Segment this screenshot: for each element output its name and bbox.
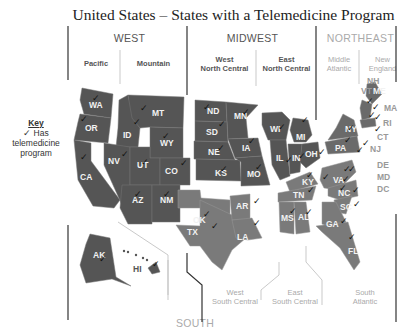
label-co: CO xyxy=(165,166,178,176)
check-icon: ✓ xyxy=(80,114,88,124)
label-sd: SD xyxy=(206,127,218,137)
check-icon: ✓ xyxy=(348,232,356,242)
check-icon: ✓ xyxy=(344,135,352,145)
label-dc: DC xyxy=(377,184,389,194)
label-oh: OH xyxy=(305,149,318,159)
check-icon: ✓ xyxy=(134,189,142,199)
label-me: ME xyxy=(373,86,386,96)
check-icon: ✓ xyxy=(339,183,347,193)
check-icon: ✓ xyxy=(203,209,211,219)
label-sc: SC xyxy=(340,202,352,212)
check-icon: ✓ xyxy=(255,162,263,172)
label-de: DE xyxy=(377,160,389,170)
check-icon: ✓ xyxy=(203,102,211,112)
check-icon: ✓ xyxy=(347,123,355,133)
label-mi: MI xyxy=(296,132,305,142)
check-icon: ✓ xyxy=(121,149,129,159)
check-icon: ✓ xyxy=(353,199,361,209)
check-icon: ✓ xyxy=(152,259,160,269)
label-ga: GA xyxy=(326,219,339,229)
check-icon: ✓ xyxy=(92,93,100,103)
label-tn: TN xyxy=(293,190,304,200)
check-icon: ✓ xyxy=(318,147,326,157)
check-icon: ✓ xyxy=(340,216,348,226)
label-il: IL xyxy=(276,153,284,163)
label-hi: HI xyxy=(133,264,142,274)
check-icon: ✓ xyxy=(289,206,297,216)
check-icon: ✓ xyxy=(305,207,313,217)
check-icon: ✓ xyxy=(374,112,382,122)
check-icon: ✓ xyxy=(218,119,226,129)
check-icon: ✓ xyxy=(133,117,141,127)
check-icon: ✓ xyxy=(140,103,148,113)
check-icon: ✓ xyxy=(141,157,149,167)
check-icon: ✓ xyxy=(352,185,360,195)
label-id: ID xyxy=(123,130,132,140)
check-icon: ✓ xyxy=(374,124,382,134)
label-ca: CA xyxy=(80,172,92,182)
check-icon: ✓ xyxy=(163,189,171,199)
label-fl: FL xyxy=(348,246,358,256)
check-icon: ✓ xyxy=(301,115,309,125)
check-icon: ✓ xyxy=(322,172,330,182)
label-nj: NJ xyxy=(370,144,381,154)
check-icon: ✓ xyxy=(248,136,256,146)
check-icon: ✓ xyxy=(162,131,170,141)
check-icon: ✓ xyxy=(180,158,188,168)
check-icon: ✓ xyxy=(80,152,88,162)
check-icon: ✓ xyxy=(348,164,356,174)
label-ri: RI xyxy=(383,118,392,128)
label-mt: MT xyxy=(152,108,165,118)
us-map: WA OR CA AK HI MT ID WY NV UT CO AZ NM N… xyxy=(0,0,407,331)
label-or: OR xyxy=(85,123,98,133)
check-icon: ✓ xyxy=(298,151,306,161)
check-icon: ✓ xyxy=(253,196,261,206)
check-icon: ✓ xyxy=(278,122,286,132)
check-icon: ✓ xyxy=(217,143,225,153)
label-la: LA xyxy=(237,232,248,242)
label-vt: VT xyxy=(361,86,373,96)
label-tx: TX xyxy=(187,227,198,237)
label-ma: MA xyxy=(384,103,397,113)
label-ar: AR xyxy=(236,201,248,211)
check-icon: ✓ xyxy=(99,254,107,264)
check-icon: ✓ xyxy=(307,185,315,195)
check-icon: ✓ xyxy=(253,218,261,228)
check-icon: ✓ xyxy=(220,164,228,174)
label-nh: NH xyxy=(367,76,379,86)
label-nv: NV xyxy=(108,156,120,166)
check-icon: ✓ xyxy=(242,107,250,117)
check-icon: ✓ xyxy=(285,155,293,165)
check-icon: ✓ xyxy=(306,170,314,180)
check-icon: ✓ xyxy=(211,221,219,231)
label-md: MD xyxy=(377,172,390,182)
check-icon: ✓ xyxy=(362,138,370,148)
